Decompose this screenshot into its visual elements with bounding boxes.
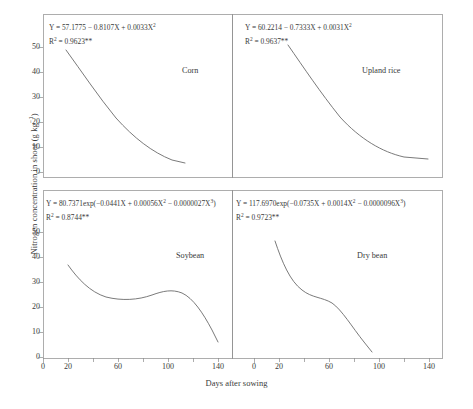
curve-soybean	[68, 265, 218, 342]
chart-canvas	[0, 0, 473, 409]
panel-frame-corn	[43, 14, 232, 177]
x-ticks-left	[43, 358, 218, 364]
curve-dry-bean	[275, 241, 372, 352]
panel-frame-upland-rice	[232, 14, 442, 177]
figure-panel-grid: Nitrogen concentration in shoot (g kg−1)…	[0, 0, 473, 409]
y-ticks-top	[38, 47, 43, 172]
panel-frame-dry-bean	[232, 190, 442, 358]
x-ticks-right	[254, 358, 429, 364]
curve-corn	[66, 50, 185, 163]
panel-frame-soybean	[43, 190, 232, 358]
curve-upland-rice	[288, 45, 428, 159]
y-ticks-bottom	[38, 232, 43, 357]
